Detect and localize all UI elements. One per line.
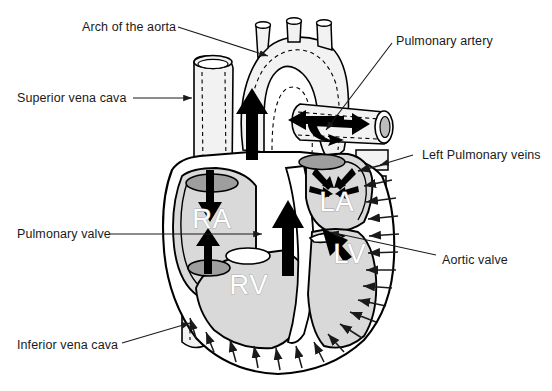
chamber-label-ra: RA (192, 204, 232, 234)
tricuspid-valve-opening (226, 248, 270, 264)
chamber-label-la: LA (319, 187, 354, 217)
mitral-valve-cusp (299, 155, 345, 170)
svc-lumen (198, 59, 228, 68)
label-pulmonary-valve: Pulmonary valve (17, 227, 111, 241)
label-superior-vena-cava: Superior vena cava (17, 91, 127, 105)
heart-anatomy-illustration: RA RV LA LV (0, 0, 552, 391)
label-left-pulmonary-veins: Left Pulmonary veins (422, 148, 541, 162)
heart-diagram-page: RA RV LA LV Arch of the aorta Superior v… (0, 0, 552, 391)
pulmonary-artery-lumen (380, 117, 390, 138)
chamber-label-lv: LV (333, 239, 366, 269)
branch-1-rim (256, 22, 271, 29)
leader-inferior-vena-cava (122, 323, 190, 343)
branch-3-rim (317, 20, 332, 27)
label-pulmonary-artery: Pulmonary artery (396, 34, 493, 48)
label-inferior-vena-cava: Inferior vena cava (17, 338, 118, 352)
chamber-label-rv: RV (229, 270, 268, 300)
label-arch-of-the-aorta: Arch of the aorta (82, 20, 176, 34)
leader-arch-of-the-aorta (178, 27, 268, 56)
label-aortic-valve: Aortic valve (442, 253, 508, 267)
branch-2-rim (287, 18, 302, 25)
